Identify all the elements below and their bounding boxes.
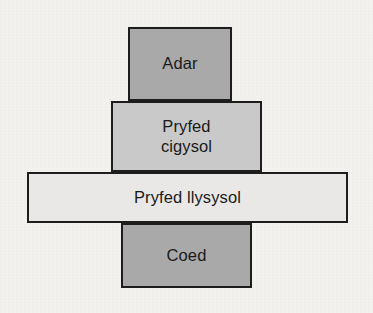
trophic-level-adar-label: Adar [158, 54, 201, 73]
trophic-level-pryfed-llysysol: Pryfed llysysol [27, 172, 348, 223]
food-chain-diagram: Adar Pryfed cigysol Pryfed llysysol Coed [0, 0, 373, 313]
trophic-level-coed: Coed [121, 223, 252, 288]
trophic-level-pryfed-cigysol-label: Pryfed cigysol [157, 117, 216, 156]
trophic-level-pryfed-llysysol-label: Pryfed llysysol [130, 188, 245, 207]
trophic-level-pryfed-cigysol: Pryfed cigysol [111, 101, 262, 172]
trophic-level-adar: Adar [128, 27, 232, 101]
trophic-level-coed-label: Coed [163, 246, 211, 265]
